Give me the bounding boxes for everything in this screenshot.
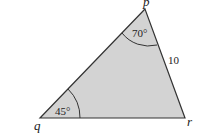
triangle-pqr: [40, 9, 185, 118]
triangle-diagram: p q r 70° 45° 10: [0, 0, 204, 133]
side-label-pr: 10: [168, 54, 180, 66]
vertex-label-p: p: [142, 0, 150, 9]
angle-label-p: 70°: [132, 27, 147, 39]
vertex-label-r: r: [187, 114, 193, 129]
angle-label-q: 45°: [55, 105, 70, 117]
vertex-label-q: q: [34, 118, 41, 133]
